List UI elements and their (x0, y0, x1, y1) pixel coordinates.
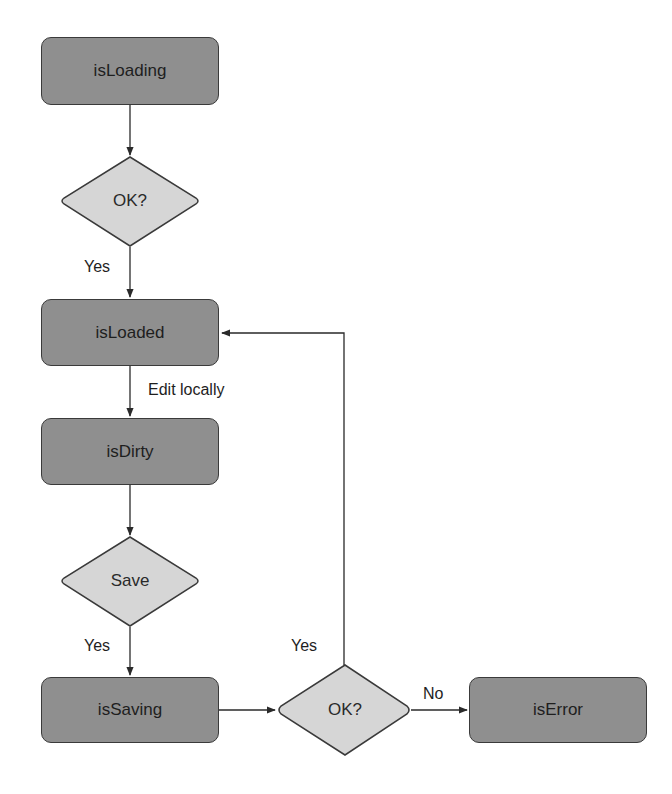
state-is-error: isError (469, 677, 647, 743)
edge-ok-to-loaded-return (222, 333, 344, 665)
state-is-loaded: isLoaded (41, 299, 219, 366)
edge-label-yes-save: Yes (84, 637, 110, 655)
state-is-saving-label: isSaving (98, 700, 162, 720)
state-is-loading-label: isLoading (94, 61, 167, 81)
edge-label-no-error: No (423, 685, 443, 703)
edge-label-edit-locally: Edit locally (148, 381, 224, 399)
decision-ok-save-label: OK? (285, 695, 405, 725)
state-is-saving: isSaving (41, 677, 219, 743)
state-is-loading: isLoading (41, 37, 219, 105)
decision-save-label: Save (70, 566, 190, 596)
state-is-loaded-label: isLoaded (95, 323, 164, 343)
state-is-dirty: isDirty (41, 418, 219, 485)
flowchart-canvas: isLoading isLoaded isDirty isSaving isEr… (0, 0, 672, 794)
decision-ok-load-label: OK? (70, 186, 190, 216)
state-is-error-label: isError (533, 700, 583, 720)
edge-label-yes-return: Yes (291, 637, 317, 655)
connectors-layer (0, 0, 672, 794)
edge-label-yes-load: Yes (84, 258, 110, 276)
state-is-dirty-label: isDirty (106, 442, 153, 462)
